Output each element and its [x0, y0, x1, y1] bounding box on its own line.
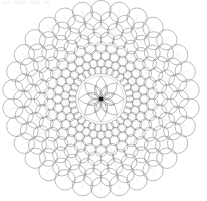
mandala-figure [0, 0, 207, 201]
drawing-canvas [0, 0, 207, 201]
center-dot [99, 97, 103, 101]
top-left-smudge-2 [14, 1, 26, 4]
top-left-smudge-3 [30, 1, 40, 4]
top-left-smudge-1 [2, 1, 11, 4]
top-left-smudge-4 [44, 1, 50, 4]
center-dot-mark [99, 97, 103, 101]
